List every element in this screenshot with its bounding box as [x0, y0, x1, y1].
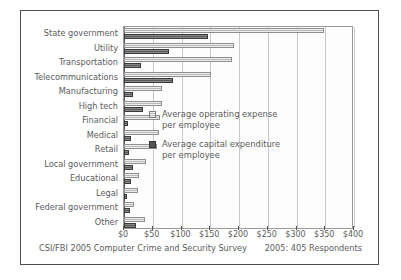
bar-operating-expense: [124, 28, 324, 33]
bar-row: [124, 42, 354, 57]
respondents-text: 2005: 405 Respondents: [265, 243, 362, 253]
value-tick-label: $100: [170, 230, 190, 239]
chart-legend: Average operating expenseper employeeAve…: [149, 109, 324, 169]
bar-capital-expenditure: [124, 136, 131, 141]
category-label: Legal: [96, 186, 118, 201]
legend-label-line1: Average capital expenditure: [162, 139, 324, 150]
bar-operating-expense: [124, 202, 134, 207]
category-label: State government: [44, 26, 118, 41]
category-label: High tech: [79, 99, 118, 114]
value-tick-label: $0: [118, 230, 128, 239]
capital-expenditure-swatch: [149, 141, 156, 148]
bar-capital-expenditure: [124, 121, 128, 126]
legend-label-line1: Average operating expense: [162, 109, 324, 120]
legend-label-line2: per employee: [162, 150, 324, 161]
category-label: Transportation: [59, 55, 118, 70]
bar-row: [124, 216, 354, 231]
bar-capital-expenditure: [124, 194, 127, 199]
value-axis-tick-labels: $0$50$100$150$200$250$300$350$400: [123, 230, 355, 243]
value-tick-label: $250: [257, 230, 277, 239]
legend-label-line2: per employee: [162, 120, 324, 131]
value-tick-mark: [152, 226, 153, 230]
category-label: Other: [95, 215, 118, 230]
category-label: Medical: [87, 128, 118, 143]
value-tick-mark: [209, 226, 210, 230]
chart-outer-frame: State governmentUtilityTransportationTel…: [20, 10, 379, 265]
bar-operating-expense: [124, 217, 145, 222]
bar-capital-expenditure: [124, 208, 130, 213]
bar-row: [124, 187, 354, 202]
value-tick-mark: [267, 226, 268, 230]
bar-operating-expense: [124, 72, 211, 77]
bar-capital-expenditure: [124, 150, 129, 155]
bar-capital-expenditure: [124, 107, 143, 112]
operating-expense-swatch: [149, 111, 156, 118]
category-label: Educational: [70, 171, 118, 186]
value-tick-label: $50: [144, 230, 159, 239]
value-tick-label: $200: [228, 230, 248, 239]
category-label: Local government: [44, 157, 118, 172]
category-axis-labels: State governmentUtilityTransportationTel…: [21, 26, 121, 229]
chart-footer: CSI/FBI 2005 Computer Crime and Security…: [21, 243, 378, 259]
bar-capital-expenditure: [124, 92, 133, 97]
bar-capital-expenditure: [124, 63, 141, 68]
bar-row: [124, 56, 354, 71]
category-label: Manufacturing: [59, 84, 118, 99]
value-tick-label: $400: [343, 230, 363, 239]
value-tick-mark: [123, 226, 124, 230]
legend-item: Average capital expenditureper employee: [149, 139, 324, 160]
bar-capital-expenditure: [124, 165, 133, 170]
bar-capital-expenditure: [124, 34, 208, 39]
bar-capital-expenditure: [124, 179, 131, 184]
chart-screenshot: State governmentUtilityTransportationTel…: [0, 0, 401, 280]
bar-row: [124, 172, 354, 187]
bar-row: [124, 201, 354, 216]
bar-operating-expense: [124, 57, 232, 62]
source-text: CSI/FBI 2005 Computer Crime and Security…: [39, 243, 247, 253]
value-tick-mark: [296, 226, 297, 230]
category-label: Utility: [94, 41, 118, 56]
bar-row: [124, 85, 354, 100]
bar-operating-expense: [124, 86, 162, 91]
bar-row: [124, 71, 354, 86]
bar-row: [124, 27, 354, 42]
bar-operating-expense: [124, 101, 162, 106]
clipped-title: [0, 0, 401, 9]
category-label: Federal government: [35, 200, 118, 215]
bar-capital-expenditure: [124, 223, 136, 228]
value-tick-mark: [181, 226, 182, 230]
bar-operating-expense: [124, 43, 234, 48]
value-tick-mark: [238, 226, 239, 230]
bar-operating-expense: [124, 188, 138, 193]
value-tick-mark: [324, 226, 325, 230]
category-label: Telecommunications: [34, 70, 118, 85]
bar-capital-expenditure: [124, 78, 173, 83]
value-tick-label: $300: [285, 230, 305, 239]
legend-item: Average operating expenseper employee: [149, 109, 324, 130]
category-label: Financial: [82, 113, 118, 128]
value-tick-label: $350: [314, 230, 334, 239]
value-tick-mark: [353, 226, 354, 230]
category-label: Retail: [95, 142, 118, 157]
value-tick-label: $150: [199, 230, 219, 239]
bar-operating-expense: [124, 159, 146, 164]
bar-operating-expense: [124, 173, 139, 178]
bar-capital-expenditure: [124, 49, 169, 54]
gridline: [354, 27, 355, 228]
